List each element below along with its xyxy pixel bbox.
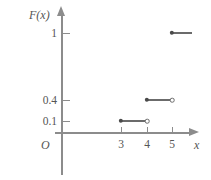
open-circle-4 — [145, 119, 150, 124]
closed-dot-3 — [119, 119, 123, 123]
y-axis-arrow-icon — [57, 6, 65, 16]
step-segment-04 — [147, 99, 172, 101]
x-axis-arrow-icon — [189, 128, 199, 136]
origin-label: O — [41, 138, 50, 153]
y-tick-mark-04 — [63, 100, 70, 101]
y-tick-label-01: 0.1 — [12, 115, 57, 127]
y-tick-label-1: 1 — [12, 27, 57, 39]
x-axis-label: x — [194, 138, 199, 153]
x-tick-mark-3 — [121, 127, 122, 133]
y-axis-label: F(x) — [29, 8, 50, 23]
step-segment-1 — [172, 32, 192, 34]
x-tick-mark-4 — [147, 127, 148, 133]
x-tick-label-3: 3 — [118, 138, 124, 150]
x-tick-label-5: 5 — [169, 138, 175, 150]
closed-dot-5 — [170, 31, 174, 35]
x-tick-mark-5 — [172, 127, 173, 133]
y-tick-mark-01 — [63, 121, 70, 122]
closed-dot-4 — [145, 98, 149, 102]
open-circle-5 — [170, 98, 175, 103]
y-tick-label-04: 0.4 — [12, 94, 57, 106]
step-segment-01 — [121, 120, 147, 122]
x-tick-label-4: 4 — [144, 138, 150, 150]
cdf-step-chart: F(x) x O 1 0.4 0.1 3 4 5 — [0, 0, 211, 180]
y-tick-mark-1 — [63, 33, 70, 34]
y-axis-line — [61, 12, 63, 175]
